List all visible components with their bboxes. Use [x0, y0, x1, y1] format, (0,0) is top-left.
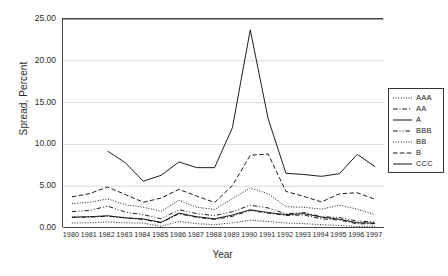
x-tick-label: 1981	[81, 230, 97, 239]
legend-label: BBB	[416, 126, 432, 136]
x-tick-label: 1993	[295, 230, 311, 239]
legend-swatch-bb	[392, 137, 413, 147]
series-line-bbb	[72, 205, 375, 222]
x-tick-label: 1991	[259, 230, 275, 239]
legend-label: CCC	[416, 159, 433, 169]
legend-item-bbb[interactable]: BBB	[392, 125, 441, 136]
x-tick-label: 1980	[63, 230, 79, 239]
clipped-header-text	[0, 0, 448, 10]
x-tick-label: 1997	[366, 230, 382, 239]
x-axis-tick-labels: 1980198119821983198419851986198719881989…	[62, 230, 383, 244]
chart-page: Spread, Percent Year 0.005.0010.0015.002…	[0, 0, 448, 276]
x-tick-label: 1982	[98, 230, 114, 239]
y-tick-label: 10.00	[20, 138, 56, 148]
x-tick-label: 1996	[348, 230, 364, 239]
y-tick-label: 25.00	[20, 13, 56, 23]
x-tick-label: 1990	[241, 230, 257, 239]
legend-item-aaa[interactable]: AAA	[392, 92, 441, 103]
series-line-bb	[72, 188, 375, 215]
legend-item-b[interactable]: B	[392, 147, 441, 158]
x-tick-label: 1994	[312, 230, 328, 239]
legend-label: AA	[416, 104, 426, 114]
chart-canvas	[63, 19, 384, 228]
y-tick-label: 20.00	[20, 55, 56, 65]
x-tick-label: 1989	[223, 230, 239, 239]
legend-swatch-aaa	[392, 93, 413, 103]
x-tick-label: 1992	[277, 230, 293, 239]
legend-label: A	[416, 115, 421, 125]
x-tick-label: 1987	[188, 230, 204, 239]
x-tick-label: 1985	[152, 230, 168, 239]
legend-item-ccc[interactable]: CCC	[392, 158, 441, 169]
x-tick-label: 1983	[116, 230, 132, 239]
series-line-b	[72, 154, 375, 202]
legend-box[interactable]: AAAAAABBBBBBCCC	[388, 88, 444, 173]
legend-label: BB	[416, 137, 426, 147]
legend-item-aa[interactable]: AA	[392, 103, 441, 114]
legend-swatch-aa	[392, 104, 413, 114]
x-tick-label: 1995	[330, 230, 346, 239]
legend-item-a[interactable]: A	[392, 114, 441, 125]
legend-swatch-a	[392, 115, 413, 125]
legend-label: AAA	[416, 93, 432, 103]
legend-item-bb[interactable]: BB	[392, 136, 441, 147]
x-tick-label: 1988	[205, 230, 221, 239]
x-tick-label: 1986	[170, 230, 186, 239]
y-tick-label: 5.00	[20, 180, 56, 190]
legend-label: B	[416, 148, 421, 158]
series-line-a	[72, 210, 375, 223]
x-tick-label: 1984	[134, 230, 150, 239]
plot-area	[62, 18, 383, 227]
x-axis-title: Year	[62, 249, 383, 260]
series-line-ccc	[108, 30, 376, 181]
legend-swatch-ccc	[392, 159, 413, 169]
series-line-aaa	[72, 220, 375, 226]
legend-swatch-b	[392, 148, 413, 158]
y-tick-label: 0.00	[20, 222, 56, 232]
y-tick-label: 15.00	[20, 97, 56, 107]
legend-swatch-bbb	[392, 126, 413, 136]
